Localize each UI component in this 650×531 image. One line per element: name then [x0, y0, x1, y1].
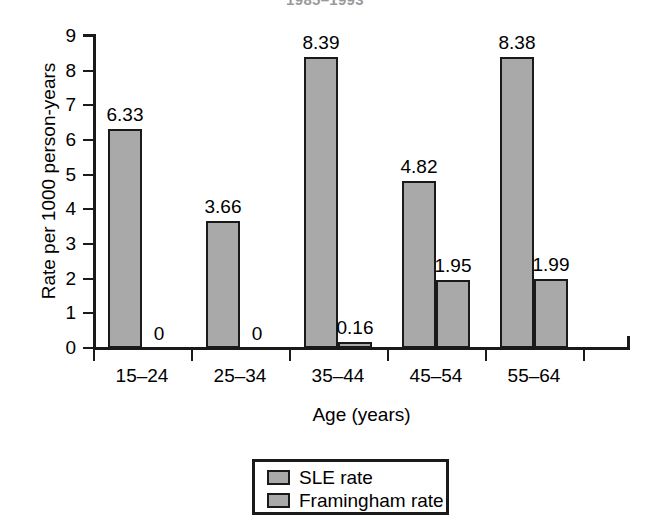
y-axis-tick	[83, 139, 94, 141]
bar-value-label: 3.66	[191, 197, 255, 216]
bar-value-label: 8.39	[289, 33, 353, 52]
y-axis-tick-label: 2	[50, 269, 76, 288]
bar-sle-rate	[108, 129, 142, 348]
bar-framingham-rate	[436, 280, 470, 348]
bar-value-label: 0.16	[323, 318, 387, 337]
x-axis-tick	[387, 350, 389, 361]
y-axis-tick	[83, 174, 94, 176]
y-axis-tick-label: 7	[50, 95, 76, 114]
chart-legend: SLE rate Framingham rate	[252, 459, 449, 515]
bar-framingham-rate	[338, 342, 372, 348]
chart-title: 1985–1993	[0, 0, 650, 8]
legend-swatch-icon	[267, 470, 290, 485]
bar-value-label: 4.82	[387, 157, 451, 176]
y-axis-tick-label: 1	[50, 303, 76, 322]
bar-value-label: 6.33	[93, 105, 157, 124]
y-axis-tick-label: 4	[50, 199, 76, 218]
y-axis-tick	[83, 278, 94, 280]
x-axis-tick	[289, 350, 291, 361]
y-axis-tick	[83, 35, 94, 37]
x-axis-group-label: 55–64	[484, 365, 584, 387]
bar-value-label: 1.99	[519, 255, 583, 274]
bar-value-label: 1.95	[421, 256, 485, 275]
y-axis-line	[93, 34, 96, 350]
x-axis-tick	[93, 350, 95, 361]
bar-framingham-rate	[534, 279, 568, 348]
bar-value-label: 0	[225, 324, 289, 343]
x-axis-group-label: 45–54	[386, 365, 486, 387]
y-axis-tick	[83, 243, 94, 245]
bar-sle-rate	[304, 57, 338, 348]
x-axis-tick	[583, 350, 585, 361]
x-axis-title: Age (years)	[93, 404, 630, 426]
bar-sle-rate	[500, 57, 534, 348]
y-axis-tick	[83, 347, 94, 349]
y-axis-tick-label: 3	[50, 234, 76, 253]
y-axis-tick-label: 5	[50, 165, 76, 184]
bar-value-label: 8.38	[485, 33, 549, 52]
y-axis-tick-label: 9	[50, 26, 76, 45]
x-axis-tick	[191, 350, 193, 361]
x-axis-group-label: 35–44	[288, 365, 388, 387]
legend-item-framingham-rate: Framingham rate	[267, 489, 446, 512]
y-axis-tick-label: 6	[50, 130, 76, 149]
x-axis-tick	[485, 350, 487, 361]
x-axis-group-label: 15–24	[92, 365, 192, 387]
legend-label: Framingham rate	[299, 491, 444, 510]
y-axis-tick	[83, 70, 94, 72]
bar-value-label: 0	[127, 324, 191, 343]
y-axis-tick	[83, 312, 94, 314]
x-axis-group-label: 25–34	[190, 365, 290, 387]
y-axis-tick	[83, 208, 94, 210]
y-axis-tick-label: 8	[50, 61, 76, 80]
legend-swatch-icon	[267, 493, 290, 508]
legend-item-sle-rate: SLE rate	[267, 466, 446, 489]
x-axis-end-cap	[627, 336, 630, 350]
legend-label: SLE rate	[299, 468, 373, 487]
y-axis-tick-label: 0	[50, 338, 76, 357]
